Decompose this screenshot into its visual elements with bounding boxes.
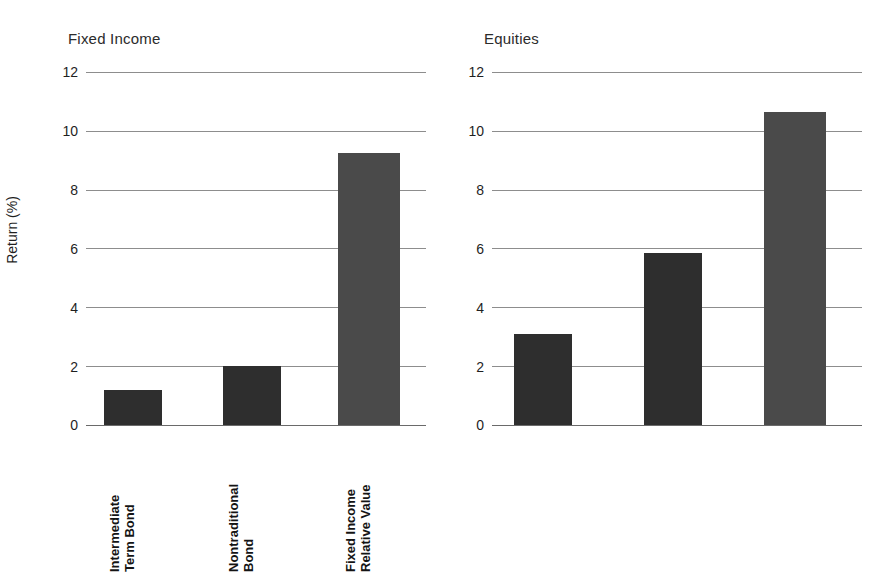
x-label-line-1: Intermediate (107, 495, 122, 572)
x-label-line-2: Relative Value (358, 485, 373, 572)
y-tick-6: 6 (42, 241, 78, 257)
y-tick-0: 0 (42, 417, 78, 433)
bar-intermediate-term-bond (104, 390, 162, 425)
y-axis-label: Return (%) (4, 196, 20, 264)
gridline-0-axis (492, 425, 862, 426)
x-label-line-1: Nontraditional (226, 484, 241, 572)
plot-area-fixed-income (86, 72, 426, 425)
y-tick-4: 4 (448, 300, 484, 316)
gridline-0-axis (86, 425, 426, 426)
x-label-line-2: Bond (241, 484, 256, 572)
bar-long-short-equity-liquid-alts (644, 253, 702, 425)
y-tick-2: 2 (448, 359, 484, 375)
y-tick-10: 10 (42, 123, 78, 139)
y-tick-8: 8 (42, 182, 78, 198)
bar-nontraditional-bond (223, 366, 281, 425)
gridline-10 (86, 131, 426, 132)
y-tick-8: 8 (448, 182, 484, 198)
x-label-line-2: Term Bond (122, 495, 137, 572)
bar-chart-figure: Fixed Income Return (%) 12 10 8 6 4 2 0 … (0, 0, 882, 586)
bar-long-short-hedge-fund (764, 112, 826, 425)
x-label-line-1: Fixed Income (343, 489, 358, 572)
panel-title-equities: Equities (484, 30, 539, 47)
y-tick-6: 6 (448, 241, 484, 257)
y-tick-10: 10 (448, 123, 484, 139)
x-label-fixed-income-relative-value: Fixed Income Relative Value (343, 485, 373, 572)
y-tick-12: 12 (448, 64, 484, 80)
y-tick-2: 2 (42, 359, 78, 375)
panel-fixed-income: Fixed Income Return (%) 12 10 8 6 4 2 0 … (0, 0, 442, 586)
bar-large-blend (514, 334, 572, 425)
panel-equities: Equities 12 10 8 6 4 2 0 Large Blend Lon… (440, 0, 882, 586)
panel-title-fixed-income: Fixed Income (68, 30, 160, 47)
gridline-12 (86, 72, 426, 73)
x-label-nontraditional-bond: Nontraditional Bond (226, 484, 256, 572)
gridline-12 (492, 72, 862, 73)
x-label-intermediate-term-bond: Intermediate Term Bond (107, 495, 137, 572)
y-tick-0: 0 (448, 417, 484, 433)
y-tick-12: 12 (42, 64, 78, 80)
plot-area-equities (492, 72, 862, 425)
y-tick-4: 4 (42, 300, 78, 316)
bar-fixed-income-relative-value (338, 153, 400, 425)
